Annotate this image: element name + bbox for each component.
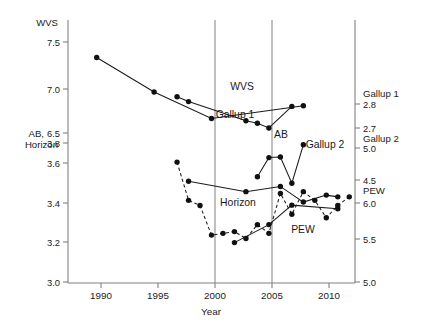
data-point <box>255 222 260 227</box>
data-point <box>255 121 260 126</box>
data-point <box>301 189 306 194</box>
data-point <box>174 94 179 99</box>
vertical-reference-lines <box>215 20 272 283</box>
series-label-ab: AB <box>274 129 288 140</box>
axes-frame <box>68 20 355 283</box>
data-point <box>289 202 294 207</box>
left-tick-label: 3.6 <box>47 158 60 169</box>
data-point <box>289 181 294 186</box>
x-tick-label: 2000 <box>204 290 226 301</box>
data-point <box>335 206 340 211</box>
data-point <box>220 231 225 236</box>
series-wvs <box>94 55 306 121</box>
left-axis-ticks <box>63 42 68 282</box>
data-point <box>186 99 191 104</box>
series-horizon <box>174 159 352 241</box>
line-chart-svg: 7.5 7.0 6.5 3.8 3.6 3.4 3.2 3.0 WVS AB, … <box>0 0 423 331</box>
series-gallup-2 <box>255 142 306 186</box>
right-tick-label: 4.5 <box>363 175 376 186</box>
data-point <box>186 179 191 184</box>
right-tick-label: 5.0 <box>363 143 376 154</box>
data-point <box>174 159 179 164</box>
data-point <box>266 125 271 130</box>
data-point <box>278 184 283 189</box>
data-point <box>278 154 283 159</box>
data-point <box>151 89 156 94</box>
data-point <box>278 191 283 196</box>
right-tick-label: 6.0 <box>363 198 376 209</box>
data-point <box>324 215 329 220</box>
data-point <box>186 198 191 203</box>
x-tick-label: 2005 <box>261 290 283 301</box>
right-tick-label: 5.0 <box>363 277 376 288</box>
left-tick-label: 3.0 <box>47 277 60 288</box>
right-tick-labels: Gallup 1 2.8 2.7 Gallup 2 5.0 4.5 PEW 6.… <box>363 88 399 288</box>
right-axis-name-pew: PEW <box>363 185 386 196</box>
left-tick-label: 7.5 <box>47 37 60 48</box>
left-tick-labels: 7.5 7.0 6.5 3.8 3.6 3.4 3.2 3.0 <box>47 37 60 288</box>
data-point <box>324 192 329 197</box>
data-point <box>197 203 202 208</box>
x-tick-labels: 1990 1995 2000 2005 2010 <box>90 290 340 301</box>
right-tick-label: 5.5 <box>363 234 376 245</box>
data-point <box>232 229 237 234</box>
left-axis-name-horizon: Horizon <box>25 139 58 150</box>
data-point <box>266 231 271 236</box>
series-label-horizon: Horizon <box>220 197 256 208</box>
series-line <box>234 205 337 242</box>
data-point <box>312 198 317 203</box>
data-point <box>94 55 99 60</box>
right-axis-name-gallup1: Gallup 1 <box>363 88 399 99</box>
series-label-pew: PEW <box>291 224 315 235</box>
series-label-gallup-1: Gallup 1 <box>216 109 255 120</box>
left-axis-name-wvs: WVS <box>36 17 58 28</box>
right-tick-label: 2.8 <box>363 99 376 110</box>
left-axis-name-ab: AB, <box>29 128 44 139</box>
right-tick-label: 2.7 <box>363 123 376 134</box>
series-line <box>257 145 303 183</box>
data-point <box>301 103 306 108</box>
data-point <box>335 194 340 199</box>
data-point <box>209 232 214 237</box>
chart-container: 7.5 7.0 6.5 3.8 3.6 3.4 3.2 3.0 WVS AB, … <box>0 0 423 331</box>
x-tick-label: 2010 <box>318 290 340 301</box>
data-point <box>255 174 260 179</box>
data-point <box>301 199 306 204</box>
left-tick-label: 3.2 <box>47 237 60 248</box>
left-tick-label: 3.4 <box>47 198 60 209</box>
left-tick-label: 7.0 <box>47 84 60 95</box>
x-axis-title: Year <box>201 306 222 317</box>
right-axis-ticks <box>355 104 360 282</box>
series-label-gallup-2: Gallup 2 <box>306 139 345 150</box>
series-label-wvs: WVS <box>230 81 254 92</box>
left-tick-label: 6.5 <box>47 128 60 139</box>
data-point <box>289 104 294 109</box>
data-point <box>232 240 237 245</box>
series-layer <box>94 55 352 246</box>
x-tick-label: 1995 <box>147 290 169 301</box>
data-point <box>347 194 352 199</box>
x-axis-ticks <box>101 283 329 288</box>
data-point <box>243 189 248 194</box>
data-point <box>266 222 271 227</box>
data-point <box>209 116 214 121</box>
x-tick-label: 1990 <box>90 290 112 301</box>
data-point <box>289 212 294 217</box>
data-point <box>266 155 271 160</box>
